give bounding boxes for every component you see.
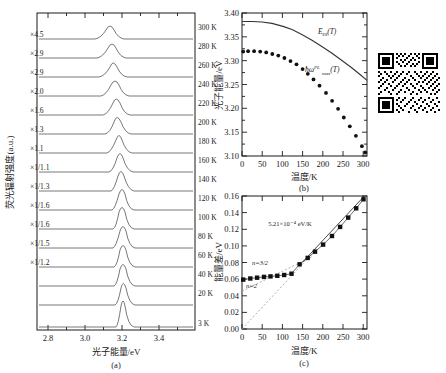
- panel-a-temp-label: 40 K: [198, 270, 213, 279]
- data-point: [318, 84, 322, 88]
- panel-a-temp-label: 100 K: [198, 213, 217, 222]
- spectrum-trace: [39, 136, 193, 154]
- panel-b-curve-labels: Eex(T) ħωPLmax(T): [305, 27, 340, 76]
- panel-c-ytick-6: 0.12: [224, 224, 239, 234]
- data-point: [338, 225, 342, 229]
- spectrum-trace: [39, 172, 193, 192]
- panel-a-spectra: [39, 26, 193, 327]
- panel-b-xtick-1: 50: [258, 159, 267, 169]
- panel-b-xtick-5: 250: [337, 159, 350, 169]
- panel-c-xtick-0: 0: [240, 332, 244, 342]
- data-point: [282, 273, 286, 277]
- panel-a-temp-label: 300 K: [198, 23, 217, 32]
- data-point: [248, 276, 252, 280]
- panel-b-yticks: [242, 13, 367, 156]
- panel-a: 2.8 3.0 3.2 3.4 光子能量/eV 荧光辐射强度(a.u.) (a): [4, 13, 217, 370]
- data-point: [306, 256, 310, 260]
- data-point: [258, 50, 262, 54]
- panel-a-ylabel: 荧光辐射强度(a.u.): [4, 136, 15, 209]
- panel-c-ytick-5: 0.10: [224, 241, 239, 251]
- panel-a-multiplier: ×1/1.6: [30, 201, 50, 210]
- data-point: [289, 59, 293, 63]
- panel-b-xtick-0: 0: [240, 159, 244, 169]
- data-point: [283, 56, 287, 60]
- panel-a-multiplier: ×2.9: [30, 49, 44, 58]
- panel-a-multiplier: ×1/1.5: [30, 239, 50, 248]
- panel-b-ytick-2: 3.20: [224, 103, 239, 113]
- panel-b-ytick-0: 3.10: [224, 151, 239, 161]
- panel-a-xlabel: 光子能量/eV: [92, 346, 141, 357]
- data-point: [276, 54, 280, 58]
- panel-a-multiplier: ×1/1.1: [30, 163, 50, 172]
- panel-a-multiplier: ×1/1.2: [30, 258, 50, 267]
- data-point: [330, 234, 334, 238]
- panel-c-ylabel: 能量差/eV: [213, 242, 224, 282]
- panel-c-xtick-4: 200: [316, 332, 329, 342]
- panel-b-xtick-6: 300: [357, 159, 370, 169]
- panel-c-ytick-8: 0.16: [224, 191, 239, 201]
- panel-c-xlabel: 温度/K: [291, 345, 319, 356]
- panel-c-ytick-3: 0.06: [224, 274, 239, 284]
- spectrum-trace: [39, 208, 193, 230]
- spectrum-trace: [39, 246, 193, 268]
- panel-a-multiplier: ×1/1.6: [30, 220, 50, 229]
- panel-a-frame: [37, 13, 195, 330]
- panel-a-xtick-0: 2.8: [43, 333, 54, 343]
- data-point: [241, 277, 245, 281]
- data-point: [262, 275, 266, 279]
- panel-b-ytick-5: 3.35: [224, 32, 239, 42]
- spectrum-trace: [39, 99, 193, 115]
- panel-a-multiplier: ×1.1: [30, 144, 44, 153]
- spectrum-trace: [39, 118, 193, 135]
- panel-a-caption: (a): [111, 360, 121, 370]
- panel-a-multiplier: ×1/1.3: [30, 182, 50, 191]
- panel-a-temp-label: 200 K: [198, 118, 217, 127]
- data-point: [363, 151, 367, 155]
- data-point: [330, 99, 334, 103]
- data-point: [252, 49, 256, 53]
- data-point: [324, 91, 328, 95]
- panel-b-xtick-3: 150: [296, 159, 309, 169]
- panel-a-temp-label: 60 K: [198, 251, 213, 260]
- panel-c-xtick-3: 150: [296, 332, 309, 342]
- panel-a-temp-label: 140 K: [198, 175, 217, 184]
- panel-c-ytick-4: 0.08: [224, 258, 239, 268]
- data-point: [275, 274, 279, 278]
- spectrum-trace: [39, 63, 193, 77]
- panel-b-frame: [242, 13, 367, 156]
- panel-a-temp-label: 3 K: [198, 319, 210, 328]
- panel-c-ytick-1: 0.02: [224, 307, 239, 317]
- panel-b-caption: (b): [299, 183, 309, 193]
- panel-b-eex-label: Eex(T): [317, 27, 337, 37]
- data-point: [246, 49, 250, 53]
- data-point: [360, 144, 364, 148]
- panel-c-xtick-1: 50: [258, 332, 267, 342]
- panel-c-n32-label: n=3/2: [252, 259, 269, 266]
- panel-c-caption: (c): [299, 358, 309, 368]
- data-point: [336, 107, 340, 111]
- panel-a-xtick-1: 3.0: [80, 333, 91, 343]
- data-point: [301, 67, 305, 71]
- qr-code: [375, 50, 441, 116]
- panel-b: 3.40 3.35 3.30 3.25 3.20 3.15 3.10: [213, 8, 370, 193]
- data-point: [289, 272, 293, 276]
- panel-b-ytick-1: 3.15: [224, 127, 239, 137]
- data-point: [321, 242, 325, 246]
- panel-c-connector: [243, 199, 363, 279]
- panel-b-ylabel: 光子能量/eV: [213, 60, 224, 109]
- figure-svg: 2.8 3.0 3.2 3.4 光子能量/eV 荧光辐射强度(a.u.) (a): [0, 0, 446, 373]
- data-point: [255, 276, 259, 280]
- panel-a-multiplier: ×1.3: [30, 125, 44, 134]
- data-point: [348, 124, 352, 128]
- data-point: [270, 52, 274, 56]
- data-point: [313, 250, 317, 254]
- spectrum-trace: [39, 265, 193, 287]
- spectrum-trace: [39, 190, 193, 211]
- panel-a-temp-label: 160 K: [198, 156, 217, 165]
- panel-c-ytick-0: 0.00: [224, 324, 239, 334]
- panel-a-temp-label: 20 K: [198, 289, 213, 298]
- panel-c-points: [241, 197, 366, 282]
- panel-b-xtick-4: 200: [316, 159, 329, 169]
- panel-a-temp-label: 280 K: [198, 42, 217, 51]
- panel-a-multiplier: ×1.6: [30, 106, 44, 115]
